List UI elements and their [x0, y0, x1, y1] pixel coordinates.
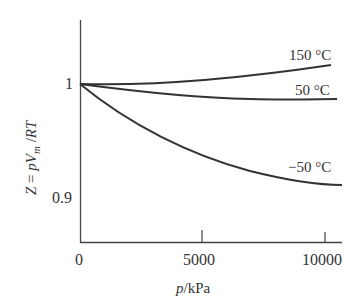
y-axis-label: Z = pVm /RT — [23, 119, 42, 195]
label-50C: 50 °C — [295, 82, 330, 98]
x-tick-label-10000: 10000 — [302, 251, 342, 268]
x-tick-label-0: 0 — [75, 251, 83, 268]
y-tick-label-1: 1 — [65, 75, 73, 92]
x-tick-label-5000: 5000 — [183, 251, 215, 268]
x-axis-label: p/kPa — [175, 280, 211, 296]
compressibility-chart: 150 °C 50 °C −50 °C 1 0.9 0 5000 10000 p… — [0, 0, 363, 306]
series-150C — [80, 65, 331, 84]
svg-text:Z = pVm /RT: Z = pVm /RT — [23, 119, 42, 195]
label-minus50C: −50 °C — [288, 159, 331, 175]
label-150C: 150 °C — [289, 47, 331, 63]
y-tick-label-0.9: 0.9 — [52, 189, 72, 206]
